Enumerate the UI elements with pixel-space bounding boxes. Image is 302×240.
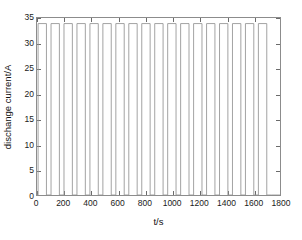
y-tick-label-10: 10 <box>10 140 34 150</box>
x-tick-label-1800: 1800 <box>272 198 291 208</box>
y-tick-label-20: 20 <box>10 89 34 99</box>
x-tick-label-600: 600 <box>111 198 125 208</box>
x-tick-label-1000: 1000 <box>163 198 182 208</box>
x-tick-label-1400: 1400 <box>217 198 236 208</box>
x-tick-label-0: 0 <box>34 198 39 208</box>
x-axis-title: t/s <box>36 216 281 227</box>
chart-figure: dischange current/A 05101520253035 02004… <box>0 0 302 240</box>
y-tick-label-15: 15 <box>10 114 34 124</box>
y-axis-title: dischange current/A <box>2 64 13 149</box>
x-tick-label-1200: 1200 <box>190 198 209 208</box>
plot-area <box>36 17 281 196</box>
x-tick-label-200: 200 <box>56 198 70 208</box>
y-tick-label-25: 25 <box>10 63 34 73</box>
x-tick-label-400: 400 <box>83 198 97 208</box>
y-tick-label-0: 0 <box>10 191 34 201</box>
x-tick-label-800: 800 <box>138 198 152 208</box>
discharge-current-waveform <box>37 18 280 195</box>
data-series-layer <box>37 18 280 195</box>
y-tick-label-30: 30 <box>10 38 34 48</box>
y-tick-label-35: 35 <box>10 12 34 22</box>
y-tick-label-5: 5 <box>10 165 34 175</box>
x-tick-label-1600: 1600 <box>244 198 263 208</box>
